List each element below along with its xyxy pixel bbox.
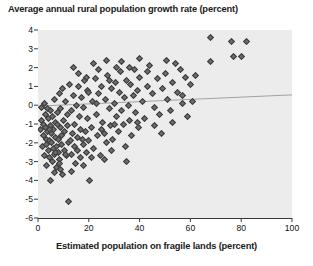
x-tick-label: 60 xyxy=(170,223,210,233)
x-tick-label: 80 xyxy=(221,223,261,233)
x-tick-label: 20 xyxy=(69,223,109,233)
x-axis-tick-labels: 020406080100 xyxy=(0,0,313,266)
scatter-chart-figure: Average annual rural population growth r… xyxy=(0,0,313,266)
x-tick-label: 100 xyxy=(272,223,312,233)
x-tick-label: 0 xyxy=(18,223,58,233)
x-tick-label: 40 xyxy=(120,223,160,233)
x-axis-title: Estimated population on fragile lands (p… xyxy=(0,241,313,251)
